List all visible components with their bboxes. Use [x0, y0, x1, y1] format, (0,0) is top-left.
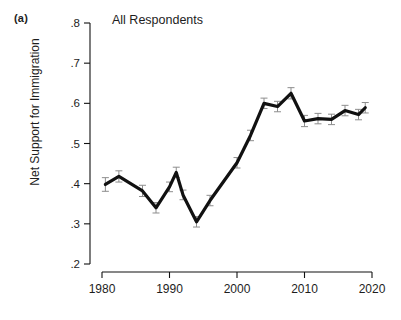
x-tick-label: 2010: [291, 282, 318, 296]
x-axis: 19801990200020102020: [89, 272, 386, 296]
y-tick-label: .7: [70, 57, 80, 69]
y-tick-label: .5: [70, 138, 80, 150]
x-tick-label: 2020: [359, 282, 386, 296]
x-tick-label: 1980: [89, 282, 116, 296]
y-tick-label: .8: [70, 17, 80, 29]
x-tick-label: 2000: [224, 282, 251, 296]
x-tick-label: 1990: [156, 282, 183, 296]
figure-panel: (a) All Respondents Net Support for Immi…: [0, 0, 401, 320]
y-tick-label: .3: [70, 218, 80, 230]
line-chart-plot: .2.3.4.5.6.7.8 19801990200020102020: [0, 0, 401, 320]
error-bars: [102, 88, 369, 227]
y-tick-label: .2: [70, 258, 80, 270]
y-tick-label: .6: [70, 97, 80, 109]
y-tick-label: .4: [70, 178, 80, 190]
y-axis: .2.3.4.5.6.7.8: [70, 17, 90, 270]
